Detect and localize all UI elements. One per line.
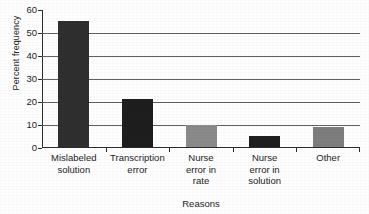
plot-area [42,10,360,148]
bar [122,99,153,147]
x-axis-line [42,147,360,148]
x-category-label-line: solution [233,175,297,187]
gridline [42,102,360,103]
x-category-label-line: error [106,164,170,176]
x-category-label-line: Mislabeled [42,152,106,164]
y-tick-mark [38,102,42,103]
y-tick-label: 0 [17,143,37,153]
x-category-label-line: Nurse [169,152,233,164]
bar [186,125,217,147]
y-tick-label: 20 [17,97,37,107]
y-tick-label: 60 [17,5,37,15]
y-tick-mark [38,33,42,34]
bar [58,21,89,148]
x-category-label-line: error in [169,164,233,176]
x-axis-title: Reasons [42,198,360,209]
x-category-label: Other [296,152,360,164]
x-category-label: Nurseerror inrate [169,152,233,187]
x-category-label-line: Nurse [233,152,297,164]
y-tick-label: 10 [17,120,37,130]
x-category-label-line: Other [296,152,360,164]
y-tick-mark [38,10,42,11]
x-category-label-line: rate [169,175,233,187]
bar-chart: Percent frequency 0102030405060 Mislabel… [0,0,369,214]
gridline [42,56,360,57]
gridline [42,79,360,80]
gridline [42,33,360,34]
y-tick-mark [38,125,42,126]
x-category-label-line: solution [42,164,106,176]
y-tick-mark [38,56,42,57]
x-category-label: Mislabeledsolution [42,152,106,175]
x-category-label: Nurseerror insolution [233,152,297,187]
bar [313,127,344,147]
y-tick-label: 40 [17,51,37,61]
y-tick-mark [38,79,42,80]
x-category-label-line: error in [233,164,297,176]
y-tick-label: 50 [17,28,37,38]
y-tick-label: 30 [17,74,37,84]
x-axis-category-labels: MislabeledsolutionTranscriptionerrorNurs… [42,152,360,194]
x-category-label: Transcriptionerror [106,152,170,175]
y-tick-mark [38,148,42,149]
bar [249,136,280,148]
x-category-label-line: Transcription [106,152,170,164]
y-axis-tick-labels: 0102030405060 [17,0,37,214]
